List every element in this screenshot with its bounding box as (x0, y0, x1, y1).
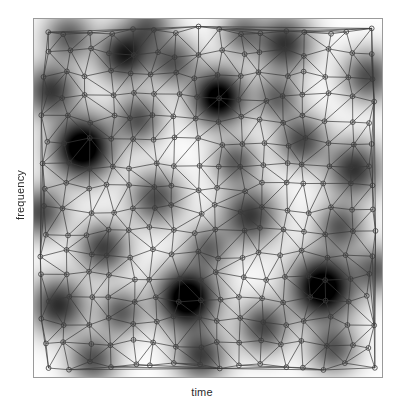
x-axis-label: time (0, 386, 404, 398)
y-axis-label-container: frequency (10, 140, 28, 250)
plot-area (33, 18, 383, 378)
time-frequency-heatmap (34, 19, 382, 377)
figure-canvas: time frequency (0, 0, 404, 416)
y-axis-label: frequency (14, 170, 26, 220)
